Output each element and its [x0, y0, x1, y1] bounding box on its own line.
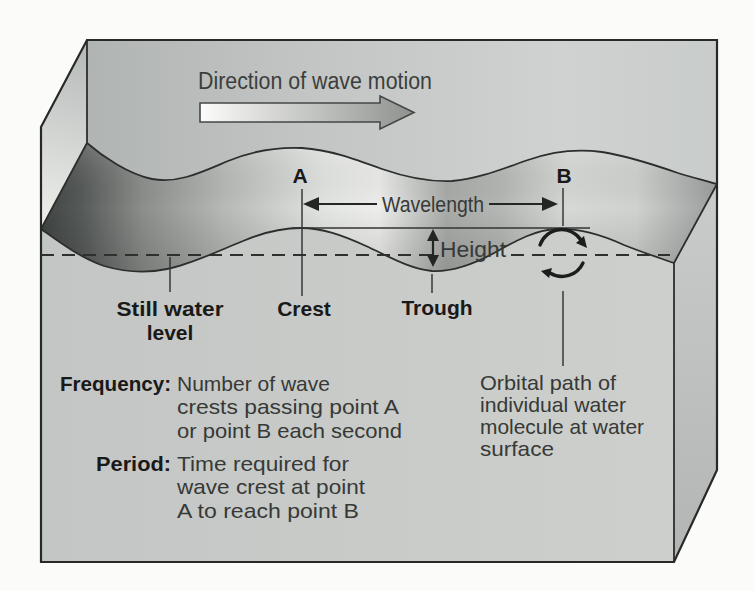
frequency-def-line3: or point B each second — [177, 419, 402, 442]
period-def-line1: Time required for — [177, 452, 349, 475]
trough-label: Trough — [401, 296, 472, 319]
height-label: Height — [440, 237, 506, 262]
orbital-note-line2: individual water — [480, 393, 626, 416]
period-def-line3: A to reach point B — [177, 499, 359, 522]
still-water-label-line1: Still water — [117, 297, 224, 320]
orbital-note-line1: Orbital path of — [480, 371, 616, 394]
crest-label: Crest — [277, 297, 331, 320]
wavelength-label: Wavelength — [382, 192, 484, 217]
frequency-term: Frequency: — [60, 372, 171, 395]
ocean-wave-characteristics-diagram: Direction of wave motion Wavelength Heig… — [0, 0, 755, 591]
point-b-label: B — [556, 164, 571, 187]
still-water-label-line2: level — [147, 321, 194, 344]
frequency-def-line2: crests passing point A — [177, 395, 399, 418]
orbital-note-line3: molecule at water — [480, 415, 644, 438]
direction-label: Direction of wave motion — [198, 68, 432, 94]
period-def-line2: wave crest at point — [176, 475, 365, 498]
period-term: Period: — [96, 452, 171, 475]
point-a-label: A — [292, 164, 307, 187]
frequency-def-line1: Number of wave — [177, 372, 330, 395]
orbital-note-line4: surface — [480, 437, 554, 460]
